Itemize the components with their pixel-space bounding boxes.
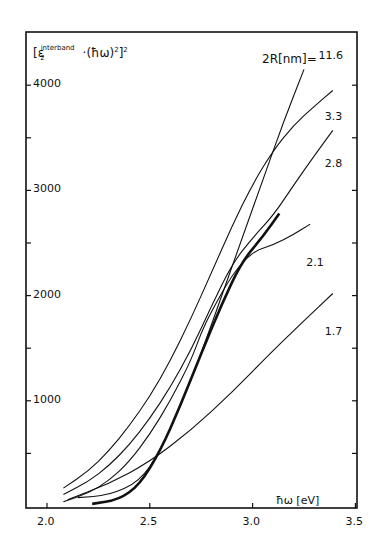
- series-11-6-line: [78, 69, 304, 497]
- series-label: 1.7: [325, 325, 343, 338]
- y-tick-label: 1000: [33, 393, 61, 406]
- y-tick-label: 4000: [33, 77, 61, 90]
- y-tick-label: 2000: [33, 288, 61, 301]
- plot-frame: [26, 32, 357, 508]
- x-tick-label: 2.5: [140, 515, 158, 528]
- series-2-1-line: [63, 224, 310, 502]
- series-1-7-line: [68, 294, 333, 500]
- series-label: 11.6: [319, 49, 344, 62]
- legend-title: 2R[nm]=: [262, 52, 317, 66]
- curves: [63, 69, 332, 504]
- x-tick-label: 3.0: [243, 515, 261, 528]
- series-label: 3.3: [325, 110, 343, 123]
- series-2-8-line: [63, 130, 332, 494]
- y-axis-label: [ε2interband·(ħω)2]2: [33, 46, 128, 62]
- x-tick-label: 2.0: [37, 515, 55, 528]
- series-label: 2.1: [306, 256, 324, 269]
- y-tick-label: 3000: [33, 182, 61, 195]
- series-3-3-line: [63, 91, 332, 489]
- x-axis-label: ħω [eV]: [276, 494, 319, 507]
- series-label: 2.8: [325, 157, 343, 170]
- axis-ticks: [26, 85, 357, 508]
- x-tick-label: 3.5: [345, 515, 363, 528]
